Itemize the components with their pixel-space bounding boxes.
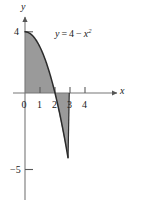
equation-lhs: y — [55, 28, 59, 39]
equation-annotation: y=4−x2 — [55, 28, 91, 39]
y-tick-label-4: 4 — [14, 27, 19, 37]
equation-constant: 4 — [69, 28, 74, 39]
y-tick-label-minus5: −5 — [10, 165, 21, 175]
x-tick-label-1: 1 — [37, 100, 42, 110]
x-tick-label-2: 2 — [52, 100, 57, 110]
origin-tick-label: 0 — [22, 100, 27, 110]
equation-equals-sign: = — [61, 28, 67, 39]
x-axis-label: x — [120, 86, 124, 96]
shaded-region-positive — [25, 32, 55, 93]
x-tick-label-4: 4 — [82, 100, 87, 110]
equation-exponent: 2 — [88, 27, 91, 34]
figure-canvas: y x 0 1 2 3 4 4 −5 y=4−x2 — [0, 0, 141, 204]
y-axis-label: y — [21, 2, 25, 12]
equation-minus-sign: − — [76, 28, 82, 39]
x-tick-label-3: 3 — [67, 100, 72, 110]
